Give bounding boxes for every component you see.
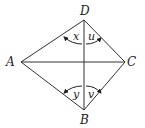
edge-ba bbox=[21, 62, 84, 110]
quadrilateral-diagram: D A C B x u y v bbox=[0, 0, 145, 128]
angle-label-y: y bbox=[72, 88, 80, 101]
angle-label-u: u bbox=[88, 30, 95, 43]
vertex-label-b: B bbox=[79, 113, 89, 127]
vertex-label-a: A bbox=[5, 55, 15, 69]
vertex-label-c: C bbox=[127, 55, 136, 69]
angle-label-v: v bbox=[88, 88, 95, 101]
vertex-label-d: D bbox=[79, 4, 90, 18]
angle-label-x: x bbox=[73, 30, 80, 43]
